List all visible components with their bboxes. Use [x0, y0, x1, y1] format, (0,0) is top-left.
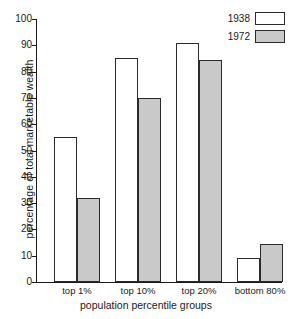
y-tick-mark: [32, 98, 36, 99]
bar-1972-bottom-80-: [260, 244, 283, 282]
bar-1938-top-10-: [115, 58, 138, 282]
legend-swatch-1972: [255, 30, 285, 43]
bar-1972-top-1-: [77, 198, 100, 282]
y-axis-tick-labels: 0102030405060708090100: [8, 0, 32, 319]
y-tick-mark: [32, 45, 36, 46]
y-tick-mark: [32, 151, 36, 152]
bar-chart: percentage of total marketable wealth 01…: [0, 0, 292, 319]
y-tick-label: 10: [8, 251, 32, 261]
y-tick-mark: [32, 229, 36, 230]
y-tick-mark: [32, 256, 36, 257]
bar-1972-top-20-: [199, 60, 222, 282]
plot-area: [37, 19, 282, 282]
bar-1938-top-20-: [176, 43, 199, 282]
y-tick-label: 70: [8, 93, 32, 103]
y-tick-label: 80: [8, 67, 32, 77]
x-axis-line: [36, 282, 282, 283]
legend: 1938 1972: [205, 11, 285, 47]
bar-1972-top-10-: [138, 98, 161, 282]
y-tick-mark: [32, 124, 36, 125]
x-tick-label: bottom 80%: [220, 285, 292, 297]
y-tick-label: 0: [8, 277, 32, 287]
bar-1938-top-1-: [54, 137, 77, 282]
y-tick-mark: [32, 72, 36, 73]
y-tick-label: 90: [8, 40, 32, 50]
legend-item-1972: 1972: [205, 29, 285, 44]
y-tick-label: 40: [8, 172, 32, 182]
y-tick-label: 50: [8, 146, 32, 156]
y-tick-label: 100: [8, 14, 32, 24]
y-tick-mark: [32, 282, 36, 283]
bar-1938-bottom-80-: [237, 258, 260, 282]
y-tick-mark: [32, 203, 36, 204]
legend-label-1972: 1972: [228, 32, 250, 42]
y-tick-label: 60: [8, 119, 32, 129]
y-tick-mark: [32, 177, 36, 178]
legend-item-1938: 1938: [205, 11, 285, 26]
y-tick-mark: [32, 19, 36, 20]
y-tick-label: 20: [8, 224, 32, 234]
legend-swatch-1938: [255, 12, 285, 25]
x-axis-title: population percentile groups: [0, 299, 292, 312]
legend-label-1938: 1938: [228, 14, 250, 24]
x-axis-tick-labels: top 1%top 10%top 20%bottom 80%: [37, 285, 282, 299]
y-tick-label: 30: [8, 198, 32, 208]
